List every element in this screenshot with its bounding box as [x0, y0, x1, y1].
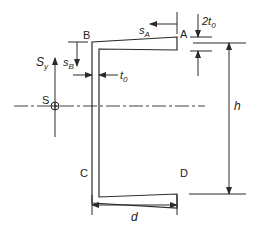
label-2t0: 2t0 [201, 15, 216, 30]
label-h: h [234, 99, 241, 113]
label-sB: sB [63, 56, 75, 71]
channel-section-diagram: B A C D S Sy sB t0 sA 2t0 h d [0, 0, 259, 230]
label-Sy: Sy [36, 55, 49, 71]
point-label-S: S [42, 94, 49, 106]
label-d: d [131, 210, 138, 224]
point-label-B: B [83, 29, 90, 41]
label-t0: t0 [120, 69, 128, 84]
channel-section [92, 37, 177, 208]
point-label-A: A [180, 28, 188, 40]
point-label-C: C [80, 167, 88, 179]
point-label-D: D [180, 167, 188, 179]
section-outer-outline [92, 37, 177, 208]
label-sA: sA [139, 24, 150, 39]
